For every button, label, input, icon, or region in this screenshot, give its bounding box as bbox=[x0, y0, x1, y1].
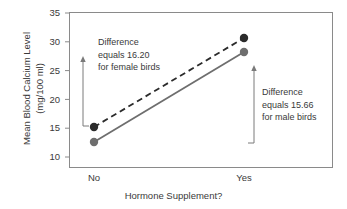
x-axis-title: Hormone Supplement? bbox=[0, 190, 347, 201]
male-difference-arrow bbox=[248, 65, 257, 143]
annotation-female-line3: for female birds bbox=[98, 61, 160, 74]
y-axis-title-line2: (mg/100 ml) bbox=[33, 9, 46, 169]
data-point-female-yes bbox=[240, 34, 248, 42]
y-axis-title-line1: Mean Blood Calcium Level bbox=[21, 9, 34, 169]
female-difference-arrow bbox=[80, 56, 89, 126]
data-point-female-no bbox=[90, 123, 98, 131]
data-point-male-yes bbox=[240, 48, 248, 56]
annotation-male-line2: equals 15.66 bbox=[262, 99, 317, 112]
y-axis-title: Mean Blood Calcium Level (mg/100 ml) bbox=[21, 9, 46, 169]
annotation-male-line3: for male birds bbox=[262, 111, 317, 124]
annotation-male-line1: Difference bbox=[262, 86, 317, 99]
annotation-female-line2: equals 16.20 bbox=[98, 49, 160, 62]
annotation-female-difference: Difference equals 16.20 for female birds bbox=[98, 36, 160, 74]
x-category-label-no: No bbox=[74, 172, 114, 183]
annotation-female-line1: Difference bbox=[98, 36, 160, 49]
data-point-male-no bbox=[90, 138, 98, 146]
x-category-label-yes: Yes bbox=[224, 172, 264, 183]
y-axis-ticks bbox=[65, 13, 70, 157]
annotation-male-difference: Difference equals 15.66 for male birds bbox=[262, 86, 317, 124]
chart-figure: 35 30 25 20 15 10 Mean Blood Calcium Lev… bbox=[0, 0, 347, 209]
